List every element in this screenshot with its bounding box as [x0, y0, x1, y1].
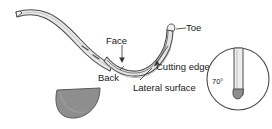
- label-face: Face: [106, 35, 127, 46]
- instrument-diagram: Toe Face Back Cutting edge Lateral surfa…: [0, 0, 272, 129]
- label-toe: Toe: [186, 22, 201, 33]
- shank-group: [16, 10, 112, 71]
- cross-section-group: [56, 88, 100, 118]
- label-cutting-edge: Cutting edge: [156, 61, 210, 72]
- angle-inset-group: 70°: [207, 48, 269, 110]
- shank-highlight: [20, 12, 110, 67]
- inset-shaft: [234, 48, 243, 95]
- cross-section-halfdisc: [56, 88, 100, 118]
- blade-toe-tip: [167, 24, 175, 31]
- label-back: Back: [98, 72, 119, 83]
- figure-root: Toe Face Back Cutting edge Lateral surfa…: [0, 0, 272, 129]
- leader-face-arrowhead: [119, 58, 125, 64]
- shank-body: [16, 10, 112, 71]
- label-lateral-surface: Lateral surface: [133, 82, 196, 93]
- leader-toe: [176, 28, 186, 29]
- label-angle: 70°: [212, 77, 223, 86]
